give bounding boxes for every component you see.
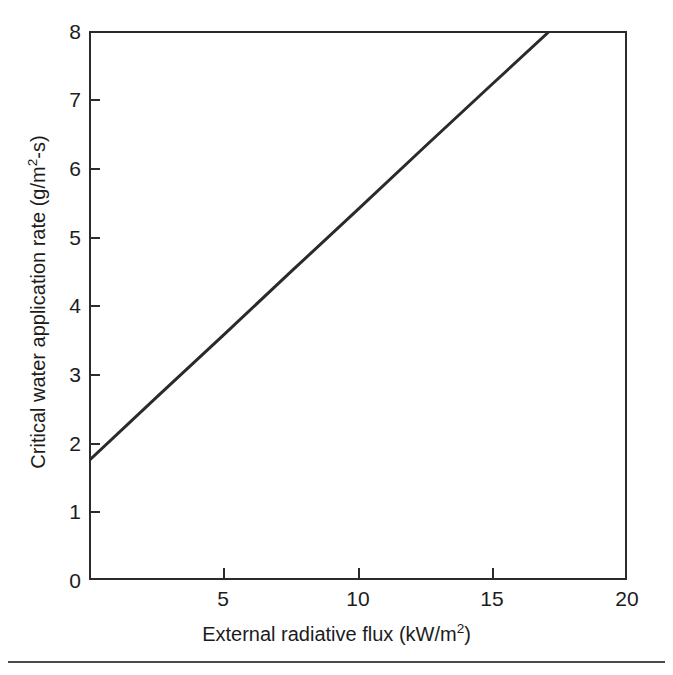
y-tick-mark-4 xyxy=(89,305,100,307)
y-axis-title: Critical water application rate (g/m2-s) xyxy=(26,22,50,582)
x-tick-label-5: 5 xyxy=(193,588,253,609)
x-tick-mark-15 xyxy=(492,568,494,580)
x-tick-label-15: 15 xyxy=(462,588,522,609)
x-tick-mark-10 xyxy=(358,568,360,580)
data-line-svg xyxy=(91,33,625,578)
y-tick-mark-1 xyxy=(89,511,100,513)
y-axis-title-prefix: Critical water application rate (g/m xyxy=(27,166,49,468)
y-tick-mark-3 xyxy=(89,374,100,376)
figure-container: 8 7 6 5 4 3 2 1 0 5 10 15 20 External ra… xyxy=(0,0,673,675)
y-tick-mark-8 xyxy=(89,31,100,33)
y-tick-mark-5 xyxy=(89,237,100,239)
y-axis-title-suffix: -s) xyxy=(27,135,49,158)
x-tick-label-20: 20 xyxy=(597,588,657,609)
footer-divider xyxy=(8,661,665,663)
x-axis-title-prefix: External radiative flux (kW/m xyxy=(202,623,457,645)
plot-area xyxy=(89,31,627,580)
x-axis-title-suffix: ) xyxy=(464,623,471,645)
x-axis-title: External radiative flux (kW/m2) xyxy=(0,622,673,646)
y-axis-title-exponent: 2 xyxy=(25,159,40,167)
x-tick-label-10: 10 xyxy=(328,588,388,609)
y-tick-mark-7 xyxy=(89,99,100,101)
x-tick-mark-5 xyxy=(223,568,225,580)
y-tick-mark-2 xyxy=(89,443,100,445)
y-tick-mark-6 xyxy=(89,168,100,170)
series-line-0 xyxy=(91,33,548,459)
